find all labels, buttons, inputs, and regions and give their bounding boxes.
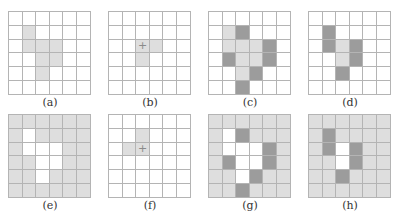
grid-cell <box>223 184 237 198</box>
grid-cell <box>223 81 237 95</box>
grid-cell <box>277 12 291 26</box>
grid-cell: + <box>136 40 150 54</box>
grid-cell <box>163 67 177 81</box>
center-marker-icon: + <box>136 40 149 53</box>
grid-cell <box>336 115 350 129</box>
grid-cell <box>363 53 377 67</box>
grid-cell <box>150 81 164 95</box>
grid-cell <box>123 115 137 129</box>
grid-cell <box>36 53 50 67</box>
grid-cell <box>23 81 37 95</box>
grid-cell <box>336 26 350 40</box>
grid-cell <box>350 170 364 184</box>
grid-cell <box>377 115 391 129</box>
grid-cell <box>9 129 23 143</box>
grid-cell <box>123 12 137 26</box>
grid-cell <box>50 143 64 157</box>
grid-cell <box>63 129 77 143</box>
grid-cell <box>123 170 137 184</box>
grid-cell <box>250 40 264 54</box>
grid-cell <box>136 129 150 143</box>
grid-cell <box>209 115 223 129</box>
grid-cell <box>163 26 177 40</box>
grid-cell <box>50 156 64 170</box>
grid-cell <box>277 143 291 157</box>
grid-cell <box>223 67 237 81</box>
grid-cell <box>150 67 164 81</box>
grid-cell <box>163 115 177 129</box>
grid-cell <box>350 129 364 143</box>
grid-cell <box>63 81 77 95</box>
grid-cell <box>250 12 264 26</box>
grid-cell <box>50 67 64 81</box>
grid-cell <box>223 170 237 184</box>
grid-cell <box>350 156 364 170</box>
grid-cell <box>236 156 250 170</box>
grid-cell <box>323 53 337 67</box>
panel-a: (a) <box>0 0 100 111</box>
grid-cell <box>250 129 264 143</box>
grid-cell <box>63 184 77 198</box>
grid-cell <box>109 67 123 81</box>
grid-cell <box>77 115 91 129</box>
grid-cell <box>150 115 164 129</box>
grid-cell <box>177 129 191 143</box>
grid-cell <box>163 143 177 157</box>
grid-cell <box>263 81 277 95</box>
grid-cell <box>150 12 164 26</box>
grid-cell <box>350 40 364 54</box>
grid-cell <box>277 81 291 95</box>
grid-cell <box>209 40 223 54</box>
grid-cell <box>36 26 50 40</box>
grid-cell <box>209 81 223 95</box>
grid-cell <box>63 40 77 54</box>
grid-cell <box>309 26 323 40</box>
grid-cell <box>336 129 350 143</box>
panel-f: +(f) <box>100 103 200 214</box>
grid-cell <box>136 53 150 67</box>
grid-cell <box>309 129 323 143</box>
grid-cell <box>23 53 37 67</box>
grid-cell <box>263 12 277 26</box>
grid-cell <box>177 67 191 81</box>
grid-cell <box>363 67 377 81</box>
grid-cell <box>9 53 23 67</box>
grid-cell <box>163 81 177 95</box>
grid-cell <box>177 156 191 170</box>
grid-cell <box>163 129 177 143</box>
grid-cell <box>109 156 123 170</box>
grid-cell <box>63 12 77 26</box>
grid-cell <box>209 184 223 198</box>
grid-cell <box>323 67 337 81</box>
grid-cell <box>77 156 91 170</box>
grid-cell <box>50 53 64 67</box>
grid-cell <box>263 26 277 40</box>
grid-cell <box>277 129 291 143</box>
grid-cell <box>136 81 150 95</box>
grid-cell <box>109 12 123 26</box>
grid-cell <box>136 115 150 129</box>
grid-cell <box>150 129 164 143</box>
grid-cell <box>63 143 77 157</box>
grid-cell <box>336 184 350 198</box>
grid-cell <box>377 143 391 157</box>
grid-cell <box>109 40 123 54</box>
grid-cell <box>136 184 150 198</box>
grid-cell <box>309 40 323 54</box>
grid-cell <box>323 143 337 157</box>
grid-cell <box>50 26 64 40</box>
grid-cell <box>223 115 237 129</box>
grid-cell <box>63 170 77 184</box>
grid-cell <box>23 143 37 157</box>
grid-cell <box>36 81 50 95</box>
grid-cell <box>36 40 50 54</box>
grid-cell <box>250 115 264 129</box>
grid-cell <box>309 143 323 157</box>
grid-cell <box>63 26 77 40</box>
grid-cell <box>163 156 177 170</box>
grid-cell <box>209 129 223 143</box>
grid-cell <box>277 115 291 129</box>
grid-cell <box>323 156 337 170</box>
grid-cell <box>23 67 37 81</box>
grid-cell <box>77 81 91 95</box>
